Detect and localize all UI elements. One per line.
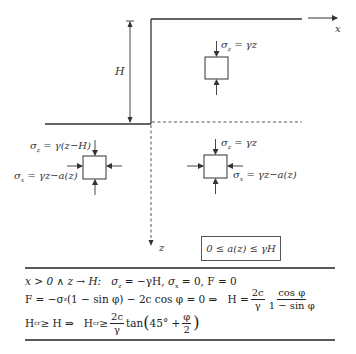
- h-dimension-arrow-bottom: [128, 117, 133, 123]
- sigma-x-label-lower-right: σx = γz−a(z): [233, 170, 297, 182]
- equation-line-3: Hcr ≥ H ⇒ Hcr ≥ 2cγ tan(45° + φ2): [25, 311, 200, 335]
- z-axis-arrowhead: [149, 240, 154, 246]
- soil-element-lower-left: [83, 156, 106, 179]
- sigma-z-label-lower-left: σz = γ(z−H): [30, 141, 91, 153]
- height-label: H: [115, 66, 125, 77]
- soil-element-upper-right: [205, 57, 228, 79]
- x-axis-label: x: [335, 24, 341, 34]
- constraint-text: 0 ≤ a(z) ≤ γH: [206, 243, 276, 254]
- fraction-2c-over-gamma: 2cγ: [251, 288, 265, 311]
- fraction-cos-over-one-minus-sin: cos φ1 − sin φ: [269, 288, 315, 311]
- z-axis-label: z: [159, 243, 164, 253]
- fraction-phi-over-two: φ2: [182, 312, 191, 335]
- sigma-z-label-lower-right: σz = γz: [221, 138, 257, 150]
- fraction-2c-over-gamma: 2cγ: [110, 312, 124, 335]
- sigma-x-label-lower-left: σx = γz−a(z): [14, 171, 78, 183]
- equation-line-2: F = −σz(1 − sin φ) − 2c cos φ = 0 ⇒ H = …: [25, 288, 317, 310]
- h-dimension-arrow-top: [128, 21, 133, 27]
- sigma-z-label-upper-right: σz = γz: [221, 40, 257, 52]
- constraint-box: 0 ≤ a(z) ≤ γH: [201, 236, 281, 261]
- soil-element-lower-right: [204, 155, 227, 178]
